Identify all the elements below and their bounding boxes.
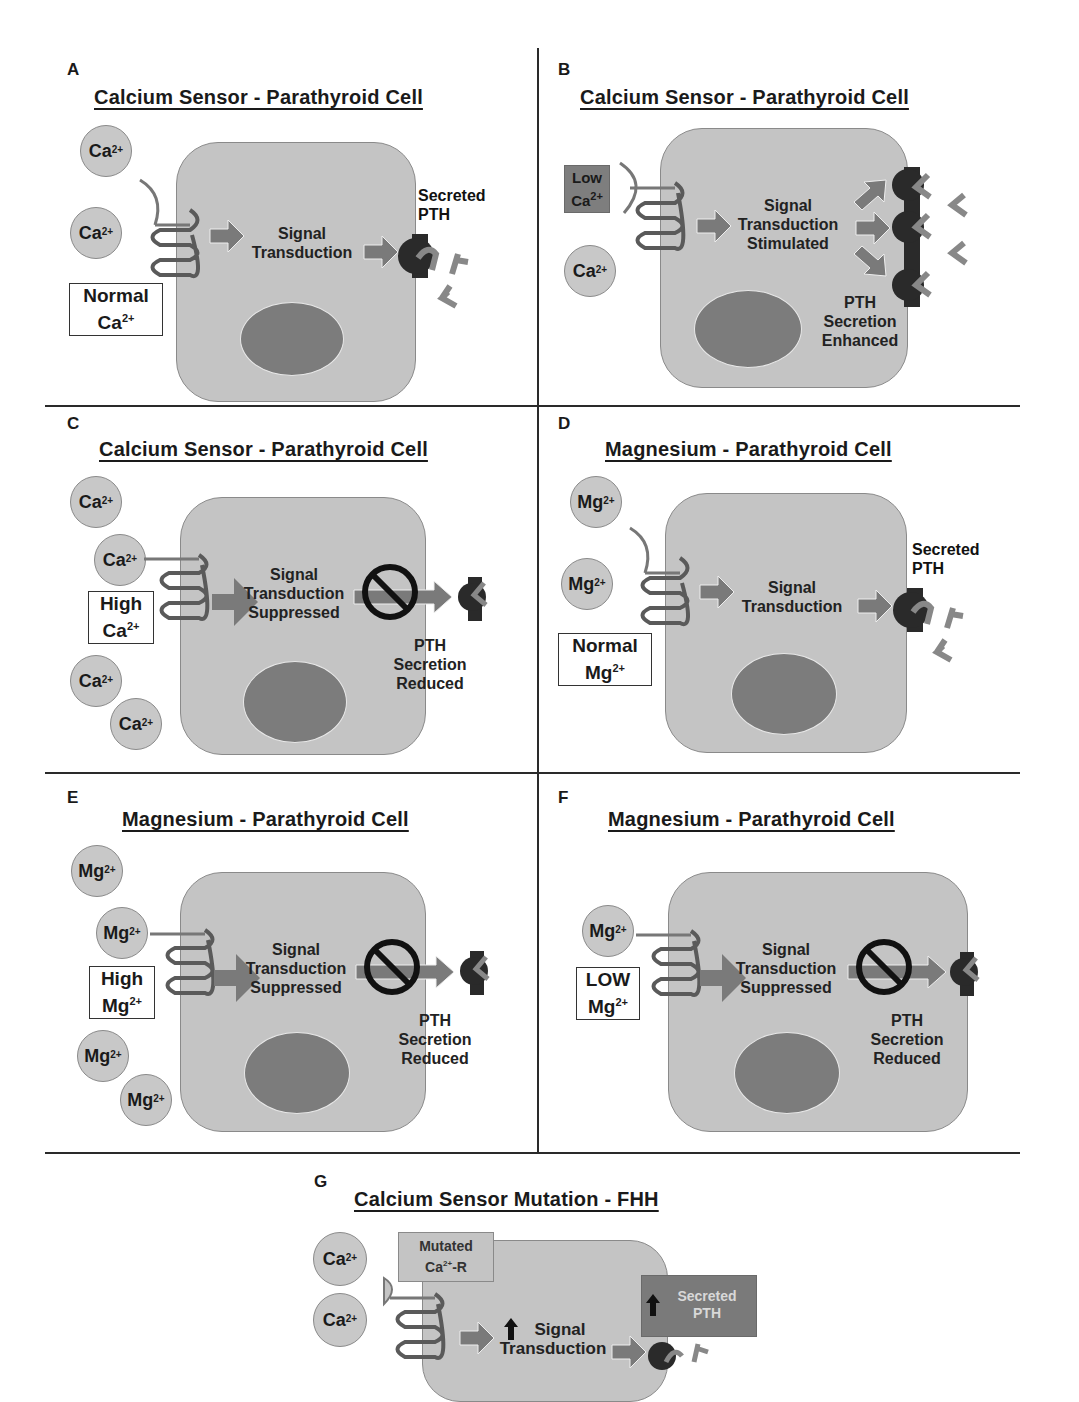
center-text: SignalTransduction [488,1320,618,1358]
ion-ca: Ca2+ [313,1293,367,1347]
panel-title: Calcium Sensor Mutation - FHH [354,1188,659,1211]
seven-transmembrane-receptor-icon [380,1278,460,1368]
secretory-vesicle-icon [648,1338,718,1368]
up-arrow-icon [646,1294,660,1316]
mutated-receptor-box: Mutated Ca2+-R [398,1232,494,1282]
right-text: SecretedPTH [660,1288,754,1322]
ion-ca: Ca2+ [313,1232,367,1286]
signal-arrow-icon [612,1336,648,1368]
panel-letter: G [314,1172,327,1192]
